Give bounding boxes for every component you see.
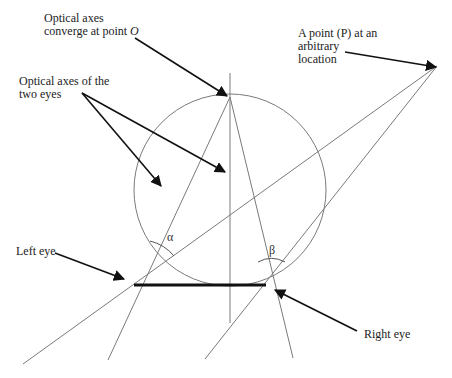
beta-arc <box>258 259 285 262</box>
point-p-label: A point (P) at anarbitrarylocation <box>298 27 377 66</box>
arrow-to-left-eye <box>55 253 124 279</box>
point-p-label-line2: arbitrary <box>298 39 339 53</box>
beta-label: β <box>269 243 275 258</box>
diagram-canvas <box>0 0 452 378</box>
right-optical-axis <box>230 97 293 358</box>
right-eye-label: Right eye <box>364 328 410 341</box>
point-o-label: O <box>130 24 139 38</box>
optical-axes-label: Optical axes of thetwo eyes <box>19 75 109 101</box>
alpha-label: α <box>167 230 173 245</box>
point-p-label-line1: A point (P) at an <box>298 26 377 40</box>
arrow-to-right-eye <box>275 290 357 331</box>
optical-axes-label-line2: two eyes <box>19 87 61 101</box>
arrow-to-right-axis <box>82 93 225 172</box>
right-line-to-p <box>205 66 437 359</box>
arrow-to-o <box>135 38 227 96</box>
optical-axes-label-line1: Optical axes of the <box>19 74 109 88</box>
left-eye-label: Left eye <box>16 245 56 258</box>
converge-label: Optical axesconverge at point O <box>44 12 139 38</box>
converge-label-line1: Optical axes <box>44 11 104 25</box>
arrow-to-left-axis <box>82 93 161 186</box>
converge-label-line2: converge at point <box>44 24 130 38</box>
point-p-label-line3: location <box>298 52 337 66</box>
